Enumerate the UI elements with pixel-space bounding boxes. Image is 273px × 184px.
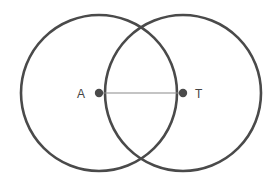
- point-t: [179, 89, 187, 97]
- overlapping-circles-diagram: A T: [0, 0, 273, 184]
- point-a: [95, 89, 103, 97]
- label-t: T: [195, 87, 203, 101]
- label-a: A: [77, 87, 85, 101]
